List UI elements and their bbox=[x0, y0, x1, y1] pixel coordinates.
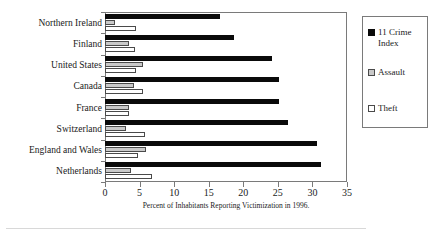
bar-assault bbox=[105, 105, 129, 110]
legend-label: Theft bbox=[378, 103, 398, 114]
bar-index bbox=[105, 14, 220, 19]
bar-theft bbox=[105, 174, 152, 179]
white-square-icon bbox=[368, 105, 375, 112]
bar-group bbox=[105, 97, 347, 118]
bar-assault bbox=[105, 168, 131, 173]
chart-legend: 11 Crime IndexAssaultTheft bbox=[362, 16, 428, 128]
x-axis-tick-labels: 05101520253035 bbox=[105, 187, 347, 201]
legend-item[interactable]: Assault bbox=[368, 67, 426, 78]
bar-theft bbox=[105, 47, 135, 52]
y-axis-label: Switzerland bbox=[6, 124, 102, 134]
x-axis-tick-label: 15 bbox=[194, 187, 224, 198]
x-axis-tick-label: 30 bbox=[297, 187, 327, 198]
bar-theft bbox=[105, 68, 136, 73]
x-axis-tick-label: 35 bbox=[332, 187, 362, 198]
x-axis-tick-label: 20 bbox=[228, 187, 258, 198]
bar-assault bbox=[105, 83, 134, 88]
bar-index bbox=[105, 162, 321, 167]
bar-assault bbox=[105, 20, 115, 25]
bar-group bbox=[105, 76, 347, 97]
bar-group bbox=[105, 33, 347, 54]
legend-item[interactable]: Theft bbox=[368, 103, 426, 114]
bar-index bbox=[105, 99, 279, 104]
bar-index bbox=[105, 77, 279, 82]
page-divider bbox=[6, 228, 366, 229]
legend-label: 11 Crime Index bbox=[378, 27, 426, 48]
x-axis-tick-label: 25 bbox=[263, 187, 293, 198]
x-axis-title: Percent of Inhabitants Reporting Victimi… bbox=[105, 201, 347, 210]
bar-group bbox=[105, 55, 347, 76]
bar-theft bbox=[105, 111, 129, 116]
bar-chart: Northern IrelandFinlandUnited StatesCana… bbox=[0, 0, 437, 236]
bar-index bbox=[105, 141, 317, 146]
y-axis-label: United States bbox=[6, 60, 102, 70]
plot-bars-layer bbox=[105, 12, 347, 182]
black-square-icon bbox=[368, 29, 375, 36]
bar-theft bbox=[105, 153, 138, 158]
bar-index bbox=[105, 56, 272, 61]
y-axis-label: Northern Ireland bbox=[6, 18, 102, 28]
bar-theft bbox=[105, 132, 145, 137]
bar-group bbox=[105, 118, 347, 139]
bar-assault bbox=[105, 126, 126, 131]
legend-item[interactable]: 11 Crime Index bbox=[368, 27, 426, 48]
y-axis-category-labels: Northern IrelandFinlandUnited StatesCana… bbox=[2, 12, 102, 182]
bar-theft bbox=[105, 26, 136, 31]
bar-group bbox=[105, 161, 347, 182]
bar-index bbox=[105, 120, 288, 125]
x-axis-tick-label: 5 bbox=[125, 187, 155, 198]
x-axis-tick-label: 10 bbox=[159, 187, 189, 198]
bar-assault bbox=[105, 147, 146, 152]
x-axis-tick-label: 0 bbox=[90, 187, 120, 198]
chart-figure: Northern IrelandFinlandUnited StatesCana… bbox=[0, 0, 437, 236]
bar-group bbox=[105, 140, 347, 161]
y-axis-label: England and Wales bbox=[6, 145, 102, 155]
bar-assault bbox=[105, 41, 129, 46]
bar-index bbox=[105, 35, 234, 40]
y-axis-label: Netherlands bbox=[6, 166, 102, 176]
bar-group bbox=[105, 12, 347, 33]
bar-theft bbox=[105, 89, 143, 94]
y-axis-label: France bbox=[6, 103, 102, 113]
bar-assault bbox=[105, 62, 143, 67]
y-axis-label: Finland bbox=[6, 39, 102, 49]
gray-square-icon bbox=[368, 69, 375, 76]
legend-label: Assault bbox=[378, 67, 405, 78]
y-axis-label: Canada bbox=[6, 81, 102, 91]
